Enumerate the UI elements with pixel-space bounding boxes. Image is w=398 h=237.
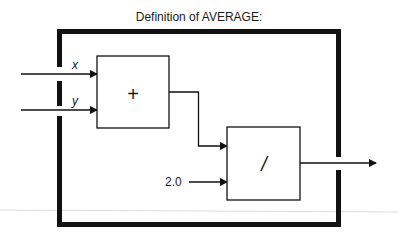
input-y-label: y bbox=[71, 94, 79, 108]
add-symbol: + bbox=[127, 83, 139, 105]
add-to-divide-wire bbox=[169, 92, 227, 146]
input-x-label: x bbox=[71, 58, 79, 72]
add-block: + bbox=[97, 56, 169, 128]
divide-block: / bbox=[227, 127, 300, 200]
average-diagram: x y + 2.0 / bbox=[0, 0, 398, 237]
constant-value: 2.0 bbox=[165, 175, 182, 189]
constant-input: 2.0 bbox=[165, 175, 227, 189]
